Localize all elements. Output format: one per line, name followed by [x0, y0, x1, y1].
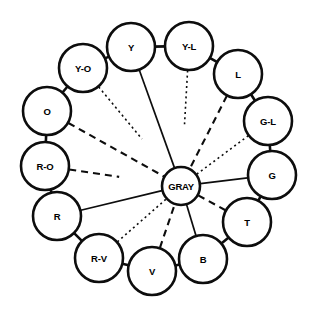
node-label-yl: Y-L — [182, 41, 197, 52]
spoke-ro — [69, 170, 119, 177]
node-label-rv: R-V — [91, 253, 108, 264]
node-gl[interactable]: G-L — [244, 97, 292, 145]
node-yl[interactable]: Y-L — [165, 22, 213, 70]
node-y[interactable]: Y — [107, 23, 155, 71]
spoke-o — [68, 123, 164, 177]
spoke-l — [190, 96, 227, 169]
color-wheel-diagram: YY-LLG-LGTBVR-VRR-OOY-O GRAY — [0, 0, 316, 310]
node-layer: YY-LLG-LGTBVR-VRR-OOY-O — [21, 22, 296, 295]
node-t[interactable]: T — [223, 198, 271, 246]
center-node-gray[interactable]: GRAY — [162, 167, 200, 205]
spoke-r — [81, 191, 162, 211]
spoke-b — [187, 205, 196, 236]
node-rv[interactable]: R-V — [75, 234, 123, 282]
node-o[interactable]: O — [23, 87, 71, 135]
spoke-t — [198, 195, 225, 210]
spoke-yo — [99, 87, 142, 139]
node-label-g: G — [268, 170, 275, 181]
node-label-yo: Y-O — [75, 63, 91, 74]
node-r[interactable]: R — [33, 192, 81, 240]
spoke-g — [200, 178, 247, 184]
spoke-yl — [185, 70, 188, 124]
node-g[interactable]: G — [248, 151, 296, 199]
node-b[interactable]: B — [179, 235, 227, 283]
node-label-ro: R-O — [37, 161, 54, 172]
node-v[interactable]: V — [128, 247, 176, 295]
node-label-b: B — [200, 254, 207, 265]
center-label: GRAY — [168, 181, 194, 192]
node-label-l: L — [235, 69, 241, 80]
node-label-gl: G-L — [260, 116, 276, 127]
node-ro[interactable]: R-O — [21, 142, 69, 190]
node-label-v: V — [149, 266, 156, 277]
spoke-v — [160, 204, 175, 247]
node-label-y: Y — [128, 42, 135, 53]
node-label-r: R — [54, 211, 61, 222]
spoke-y — [139, 70, 174, 168]
node-label-o: O — [43, 106, 50, 117]
spoke-rv — [117, 199, 166, 242]
node-l[interactable]: L — [214, 50, 262, 98]
node-label-t: T — [244, 217, 250, 228]
wheel-canvas: YY-LLG-LGTBVR-VRR-OOY-O GRAY — [0, 0, 316, 310]
node-yo[interactable]: Y-O — [59, 44, 107, 92]
spoke-layer — [68, 70, 248, 248]
center-node-layer: GRAY — [162, 167, 200, 205]
